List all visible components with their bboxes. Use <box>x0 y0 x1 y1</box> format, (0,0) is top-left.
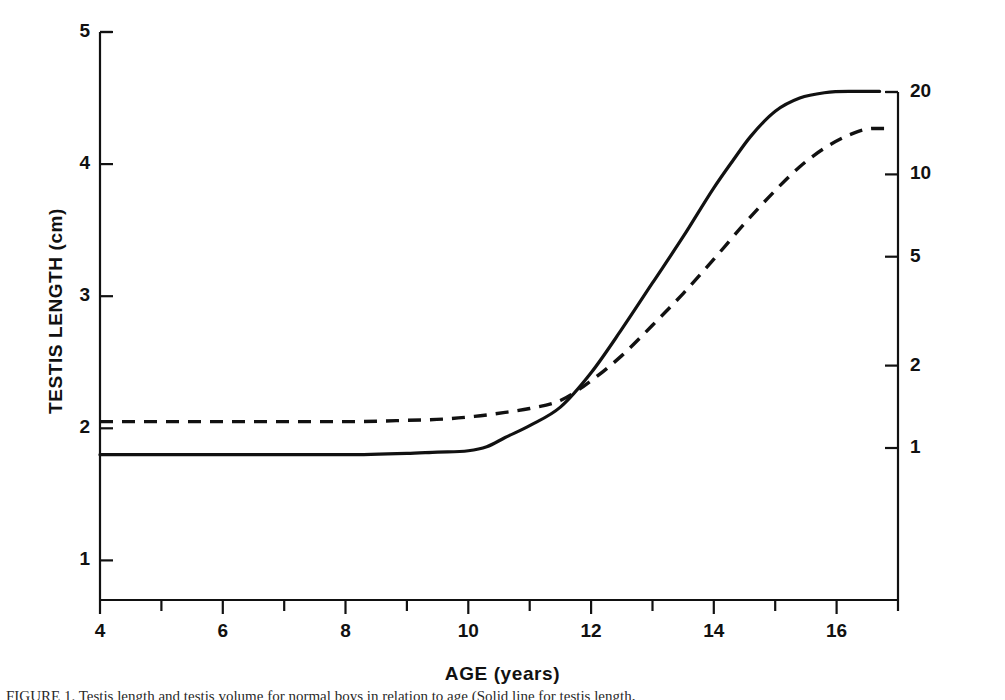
chart-plot-area <box>0 0 1005 700</box>
tick-label: 10 <box>910 162 960 184</box>
tick-label: 5 <box>50 20 90 42</box>
axis-left-ticks <box>100 32 113 560</box>
tick-label: 3 <box>50 284 90 306</box>
tick-label: 4 <box>50 152 90 174</box>
figure-container: TESTIS LENGTH (cm) TESTIS VOLUME (cc) AG… <box>0 0 1005 700</box>
tick-label: 2 <box>50 416 90 438</box>
x-axis-title: AGE (years) <box>0 663 1005 685</box>
tick-label: 6 <box>201 620 245 642</box>
series-line-testis-volume <box>100 128 886 421</box>
tick-label: 5 <box>910 245 960 267</box>
axis-right-ticks <box>885 92 898 448</box>
tick-label: 8 <box>324 620 368 642</box>
tick-label: 1 <box>50 548 90 570</box>
figure-caption: FIGURE 1. Testis length and testis volum… <box>0 688 1005 700</box>
tick-label: 14 <box>692 620 736 642</box>
tick-label: 16 <box>815 620 859 642</box>
tick-label: 20 <box>910 80 960 102</box>
tick-label: 10 <box>446 620 490 642</box>
series-line-testis-length <box>100 91 880 454</box>
axis-bottom-ticks <box>100 600 898 614</box>
tick-label: 1 <box>910 436 960 458</box>
tick-label: 4 <box>78 620 122 642</box>
tick-label: 12 <box>569 620 613 642</box>
tick-label: 2 <box>910 354 960 376</box>
